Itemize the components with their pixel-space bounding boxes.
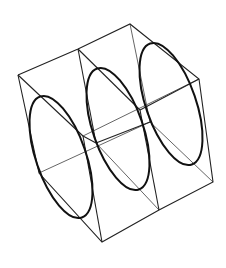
ellipse-front (17, 88, 106, 225)
cube-edges (18, 24, 213, 242)
hidden-edges (39, 24, 213, 210)
ellipses (17, 35, 216, 225)
ellipse-middle (74, 60, 163, 197)
cube-diagram (0, 0, 226, 268)
